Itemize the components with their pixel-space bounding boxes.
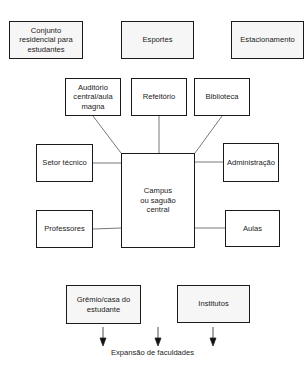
box-label: Conjunto: [19, 26, 73, 35]
box-label: Esportes: [143, 35, 173, 44]
box-label: estudantes: [19, 45, 73, 54]
box-label: Setor técnico: [42, 158, 86, 167]
connector-biblioteca: [195, 116, 222, 153]
campus-diagram: Conjunto residencial para estudantes Esp…: [0, 0, 305, 365]
box-administracao: Administração: [223, 143, 279, 182]
box-estacionamento: Estacionamento: [231, 21, 304, 59]
box-auditorio: Auditório central/aula magna: [65, 78, 121, 116]
arrowhead-icon: [155, 338, 161, 346]
arrowhead-icon: [210, 338, 216, 346]
box-label: magna: [73, 102, 112, 111]
box-professores: Professores: [36, 210, 93, 248]
box-setor-tecnico: Setor técnico: [36, 144, 93, 182]
box-refeitorio: Refeitório: [131, 78, 187, 116]
box-label: Administração: [227, 158, 275, 167]
box-label: estudante: [77, 305, 131, 314]
box-label: Biblioteca: [206, 92, 239, 101]
arrowhead-icon: [100, 338, 106, 346]
expansion-caption: Expansão de faculdades: [0, 348, 305, 357]
connector-professores: [93, 228, 121, 229]
connector-auditorio: [93, 116, 121, 153]
box-gremio: Grêmio/casa do estudante: [66, 285, 141, 324]
box-label: Institutos: [198, 299, 228, 308]
box-label: residencial para: [19, 35, 73, 44]
box-campus-hub: Campus ou saguão central: [121, 153, 195, 248]
box-label: Estacionamento: [240, 35, 294, 44]
box-label: Refeitório: [143, 92, 176, 101]
box-label: Professores: [44, 224, 85, 233]
box-label: Grêmio/casa do: [77, 295, 131, 304]
box-label: Campus: [140, 186, 175, 195]
box-label: central/aula: [73, 92, 112, 101]
box-label: Auditório: [73, 83, 112, 92]
box-label: ou saguão: [140, 196, 175, 205]
box-biblioteca: Biblioteca: [194, 78, 250, 116]
box-label: Aulas: [243, 224, 262, 233]
box-label: central: [140, 205, 175, 214]
box-institutos: Institutos: [177, 285, 250, 323]
box-aulas: Aulas: [225, 210, 280, 247]
box-esportes: Esportes: [121, 21, 194, 59]
box-conjunto-residencial: Conjunto residencial para estudantes: [9, 21, 83, 59]
